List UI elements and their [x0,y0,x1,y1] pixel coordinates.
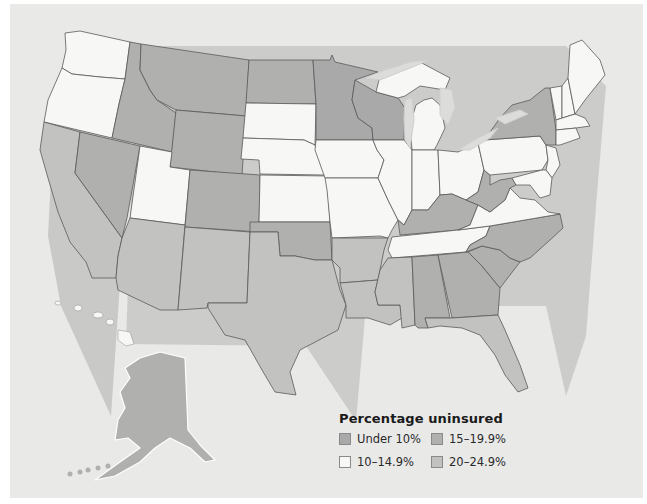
state-arizona[interactable] [116,218,185,310]
legend-item-under-10: Under 10% [339,432,431,446]
state-north-dakota[interactable] [246,60,316,104]
legend-title: Percentage uninsured [339,411,559,426]
legend-item-20-24: 20–24.9% [431,455,531,469]
state-florida[interactable] [425,315,528,392]
state-washington[interactable] [62,31,130,79]
state-ohio[interactable] [438,143,484,200]
state-colorado[interactable] [185,170,260,232]
state-kansas[interactable] [259,175,330,222]
state-iowa[interactable] [315,140,384,178]
legend-label: 10–14.9% [357,455,414,469]
state-new-mexico[interactable] [178,227,250,310]
legend-swatch [431,456,443,468]
legend-swatch [339,433,351,445]
legend-label: 20–24.9% [449,455,506,469]
legend-item-10-14: 10–14.9% [339,455,431,469]
legend-label: Under 10% [357,432,421,446]
map-legend: Percentage uninsured Under 10% 15–19.9% … [339,411,559,469]
legend-swatch [431,433,443,445]
legend-swatch [339,456,351,468]
state-wyoming[interactable] [170,110,246,175]
legend-label: 15–19.9% [449,432,506,446]
legend-item-15-19: 15–19.9% [431,432,531,446]
state-pennsylvania[interactable] [478,136,548,175]
